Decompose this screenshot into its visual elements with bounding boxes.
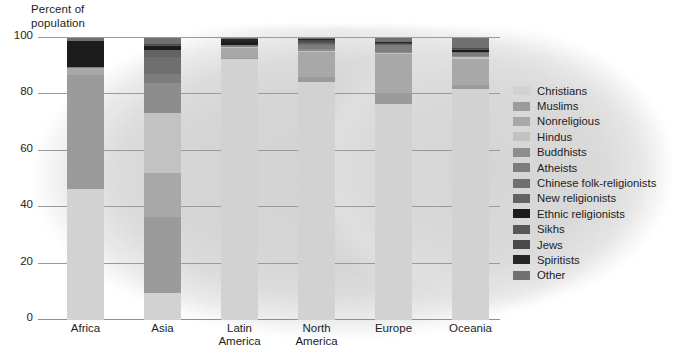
legend-label: Spiritists bbox=[537, 254, 580, 266]
gridline-100: 100 bbox=[38, 37, 500, 38]
x-axis-label-latin-america: Latin America bbox=[197, 322, 283, 348]
bar-segment bbox=[144, 293, 181, 320]
bar-asia[interactable] bbox=[144, 38, 181, 320]
x-axis-label-oceania: Oceania bbox=[428, 322, 514, 335]
legend-item[interactable]: New religionists bbox=[513, 191, 656, 206]
bar-segment bbox=[67, 75, 104, 189]
legend-label: Nonreligious bbox=[537, 115, 600, 127]
bar-segment bbox=[452, 38, 489, 48]
bar-segment bbox=[221, 48, 258, 58]
legend-swatch-icon bbox=[513, 194, 530, 203]
bar-oceania[interactable] bbox=[452, 38, 489, 320]
legend-item[interactable]: Ethnic religionists bbox=[513, 206, 656, 221]
chart-root: Percent of population 020406080100Africa… bbox=[0, 0, 675, 351]
legend-label: Atheists bbox=[537, 162, 577, 174]
legend-item[interactable]: Jews bbox=[513, 237, 656, 252]
x-axis-label-asia: Asia bbox=[120, 322, 206, 335]
bar-segment bbox=[221, 59, 258, 320]
y-axis-tick-0: 0 bbox=[27, 311, 33, 323]
bar-north-america[interactable] bbox=[298, 38, 335, 320]
bar-segment bbox=[298, 82, 335, 320]
legend-swatch-icon bbox=[513, 86, 530, 95]
legend-swatch-icon bbox=[513, 179, 530, 188]
legend-swatch-icon bbox=[513, 271, 530, 280]
legend-label: New religionists bbox=[537, 192, 616, 204]
bar-europe[interactable] bbox=[375, 38, 412, 320]
legend-item[interactable]: Spiritists bbox=[513, 252, 656, 267]
y-axis-tick-60: 60 bbox=[20, 142, 33, 154]
legend-item[interactable]: Hindus bbox=[513, 129, 656, 144]
legend-label: Hindus bbox=[537, 131, 572, 143]
bar-latin-america[interactable] bbox=[221, 38, 258, 320]
legend-item[interactable]: Buddhists bbox=[513, 145, 656, 160]
legend-swatch-icon bbox=[513, 255, 530, 264]
x-axis-label-africa: Africa bbox=[43, 322, 129, 335]
bar-segment bbox=[452, 59, 489, 86]
gridline-40: 40 bbox=[38, 206, 500, 207]
legend-label: Ethnic religionists bbox=[537, 208, 625, 220]
bar-segment bbox=[67, 189, 104, 320]
bar-segment bbox=[144, 74, 181, 84]
legend-label: Jews bbox=[537, 239, 563, 251]
y-axis-tick-20: 20 bbox=[20, 255, 33, 267]
legend-label: Muslims bbox=[537, 100, 578, 112]
gridline-60: 60 bbox=[38, 150, 500, 151]
y-axis-tick-40: 40 bbox=[20, 198, 33, 210]
legend-swatch-icon bbox=[513, 209, 530, 218]
bar-segment bbox=[144, 83, 181, 113]
legend-label: Buddhists bbox=[537, 146, 587, 158]
legend-item[interactable]: Muslims bbox=[513, 98, 656, 113]
bar-segment bbox=[144, 57, 181, 74]
legend-label: Sikhs bbox=[537, 223, 565, 235]
bar-segment bbox=[375, 45, 412, 52]
legend-swatch-icon bbox=[513, 117, 530, 126]
legend-swatch-icon bbox=[513, 225, 530, 234]
legend-item[interactable]: Nonreligious bbox=[513, 114, 656, 129]
legend-swatch-icon bbox=[513, 132, 530, 141]
legend-item[interactable]: Atheists bbox=[513, 160, 656, 175]
bar-segment bbox=[144, 217, 181, 293]
bar-segment bbox=[375, 104, 412, 320]
bar-segment bbox=[452, 89, 489, 320]
legend-label: Other bbox=[537, 269, 565, 281]
chart-legend: ChristiansMuslimsNonreligiousHindusBuddh… bbox=[513, 83, 656, 283]
x-axis-label-north-america: North America bbox=[274, 322, 360, 348]
bar-segment bbox=[298, 52, 335, 77]
legend-label: Chinese folk-religionists bbox=[537, 177, 656, 189]
bar-segment bbox=[375, 93, 412, 104]
bar-segment bbox=[144, 50, 181, 57]
y-axis-title: Percent of population bbox=[31, 3, 85, 30]
legend-swatch-icon bbox=[513, 102, 530, 111]
gridline-80: 80 bbox=[38, 93, 500, 94]
bar-segment bbox=[67, 41, 104, 66]
legend-item[interactable]: Sikhs bbox=[513, 222, 656, 237]
bar-segment bbox=[144, 173, 181, 217]
x-axis-label-europe: Europe bbox=[351, 322, 437, 335]
bar-segment bbox=[375, 54, 412, 93]
legend-swatch-icon bbox=[513, 240, 530, 249]
legend-label: Christians bbox=[537, 85, 587, 97]
legend-swatch-icon bbox=[513, 148, 530, 157]
legend-item[interactable]: Chinese folk-religionists bbox=[513, 175, 656, 190]
bar-africa[interactable] bbox=[67, 38, 104, 320]
y-axis-tick-100: 100 bbox=[14, 29, 33, 41]
legend-swatch-icon bbox=[513, 163, 530, 172]
y-axis-tick-80: 80 bbox=[20, 85, 33, 97]
legend-item[interactable]: Christians bbox=[513, 83, 656, 98]
legend-item[interactable]: Other bbox=[513, 268, 656, 283]
bar-segment bbox=[144, 113, 181, 174]
plot-area: 020406080100AfricaAsiaLatin AmericaNorth… bbox=[38, 38, 500, 320]
gridline-0: 0 bbox=[38, 319, 500, 320]
gridline-20: 20 bbox=[38, 263, 500, 264]
